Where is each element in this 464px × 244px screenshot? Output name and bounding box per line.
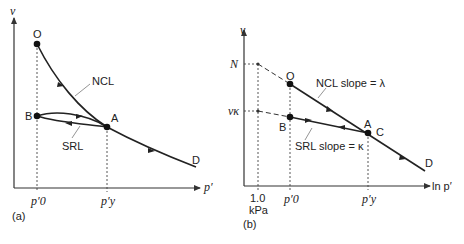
x-tick-py: p′y <box>100 194 116 208</box>
ncl-curve <box>37 44 196 167</box>
x-tick-py: p′y <box>361 192 377 206</box>
vk-point <box>256 109 259 112</box>
x-tick-kpa: kPa <box>249 204 269 216</box>
vk-label: vκ <box>228 104 239 118</box>
ncl-leader <box>75 84 90 96</box>
point-a <box>104 124 111 131</box>
label-o: O <box>286 70 295 82</box>
point-o <box>34 41 41 48</box>
ncl-line <box>290 84 425 171</box>
ncl-label: NCL <box>92 75 114 87</box>
x-tick-p0: p′0 <box>30 194 46 208</box>
point-b <box>287 114 294 121</box>
point-a <box>365 130 372 137</box>
n-label: N <box>229 57 239 71</box>
srl-label: SRL <box>62 140 83 152</box>
panel-b: v N vκ O B A C D NCL slope = λ SRL slope… <box>228 23 452 230</box>
ncl-slope-label: NCL slope = λ <box>316 77 385 89</box>
srl-leader <box>305 128 312 140</box>
srl-line <box>290 117 368 133</box>
label-b: B <box>25 110 32 122</box>
arrow-icon <box>326 106 333 112</box>
figure-canvas: v O B A D NCL SRL p′ p′0 p′y (a) <box>0 0 464 244</box>
label-o: O <box>33 28 42 40</box>
label-d: D <box>425 157 433 169</box>
label-a: A <box>364 118 372 130</box>
point-b <box>34 113 41 120</box>
caption-b: (b) <box>243 218 256 230</box>
label-d: D <box>192 154 200 166</box>
ncl-leader <box>318 88 326 98</box>
label-a: A <box>111 112 119 124</box>
n-point <box>256 62 259 65</box>
srl-extrapolation <box>258 111 290 117</box>
x-tick-p0: p′0 <box>283 192 299 206</box>
x-axis-label: ln p′ <box>432 180 452 192</box>
label-b: B <box>279 121 286 133</box>
x-tick-one: 1.0 <box>250 192 265 204</box>
panel-a: v O B A D NCL SRL p′ p′0 p′y (a) <box>10 4 213 222</box>
srl-leader <box>72 126 80 138</box>
caption-a: (a) <box>12 210 25 222</box>
label-c: C <box>376 126 384 138</box>
x-axis-label: p′ <box>203 180 213 194</box>
y-axis-label: v <box>10 4 16 18</box>
srl-slope-label: SRL slope = κ <box>295 140 364 152</box>
y-axis-label: v <box>240 23 246 37</box>
